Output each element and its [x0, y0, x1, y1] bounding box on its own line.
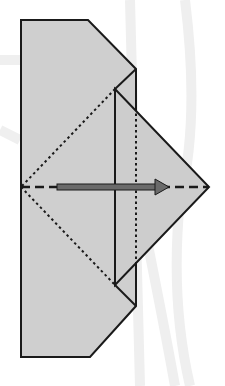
caption-fragment: . . . . . . . . . . .: [0, 376, 225, 386]
origami-diagram: . . . . . . . . . . .: [0, 0, 225, 386]
